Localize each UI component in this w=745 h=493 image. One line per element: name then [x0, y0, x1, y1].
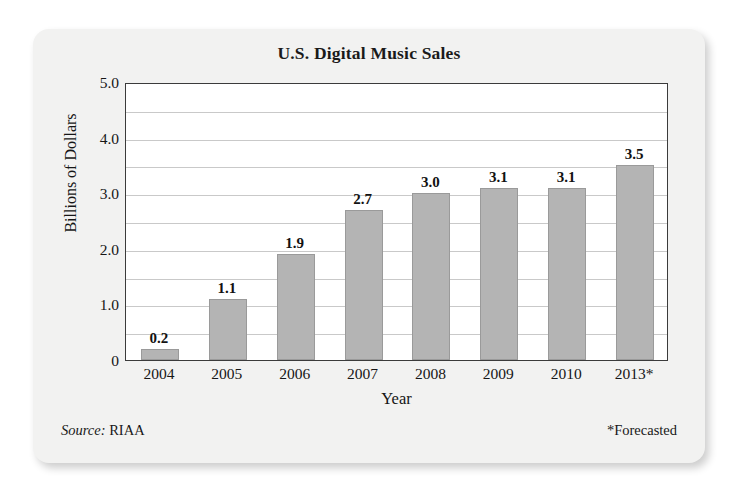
bar	[277, 254, 315, 360]
y-axis-tick-label: 0	[73, 352, 119, 370]
bar	[412, 193, 450, 360]
source-label: Source:	[61, 422, 106, 438]
y-axis-ticks: 01.02.03.04.05.0	[71, 83, 119, 361]
y-axis-tick-label: 5.0	[73, 74, 119, 92]
x-axis-tick-label: 2005	[193, 365, 261, 383]
bar-value-label: 3.1	[468, 169, 528, 186]
bar-value-label: 3.1	[536, 169, 596, 186]
x-axis-tick-label: 2007	[329, 365, 397, 383]
bar	[480, 188, 518, 360]
bar	[548, 188, 586, 360]
screenshot-root: U.S. Digital Music Sales Billions of Dol…	[0, 0, 745, 493]
bar	[209, 299, 247, 360]
x-axis-tick-label: 2013*	[600, 365, 668, 383]
bar	[616, 165, 654, 360]
plot-area	[125, 83, 668, 361]
plot-area-wrapper	[125, 83, 668, 361]
bar-value-label: 1.1	[197, 280, 257, 297]
bar-value-label: 3.0	[400, 174, 460, 191]
bar	[141, 349, 179, 360]
y-axis-tick-label: 4.0	[73, 130, 119, 148]
bar-value-label: 2.7	[333, 191, 393, 208]
x-axis-tick-label: 2004	[125, 365, 193, 383]
bar-series	[126, 84, 667, 360]
y-axis-tick-label: 2.0	[73, 241, 119, 259]
chart-card: U.S. Digital Music Sales Billions of Dol…	[33, 29, 705, 463]
y-axis-tick-label: 1.0	[73, 296, 119, 314]
page-title: U.S. Digital Music Sales	[33, 43, 705, 64]
bar-value-label: 1.9	[265, 235, 325, 252]
x-axis-title: Year	[125, 389, 668, 409]
bar	[345, 210, 383, 360]
x-axis-ticks: 20042005200620072008200920102013*	[125, 365, 668, 389]
x-axis-tick-label: 2009	[464, 365, 532, 383]
x-axis-tick-label: 2006	[261, 365, 329, 383]
x-axis-tick-label: 2008	[396, 365, 464, 383]
source-value: RIAA	[106, 422, 145, 438]
bar-value-label: 3.5	[604, 146, 664, 163]
x-axis-tick-label: 2010	[532, 365, 600, 383]
bar-value-label: 0.2	[129, 330, 189, 347]
forecast-note: *Forecasted	[607, 422, 677, 439]
source-note: Source: RIAA	[61, 422, 145, 439]
y-axis-tick-label: 3.0	[73, 185, 119, 203]
